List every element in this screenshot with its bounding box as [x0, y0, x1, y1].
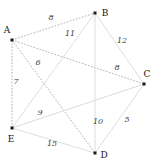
graph-edge-a-d [12, 40, 95, 153]
graph-node-d[interactable] [94, 152, 97, 155]
graph-node-label-e: E [8, 135, 15, 144]
graph-node-c[interactable] [143, 83, 146, 86]
edge-weight-e-c: 9 [37, 109, 42, 117]
graph-edge-b-c [95, 13, 144, 84]
edges-group [12, 13, 144, 153]
edge-weight-b-e: 11 [65, 30, 75, 38]
graph-node-label-b: B [102, 9, 109, 18]
edge-weight-a-c: 8 [114, 64, 119, 72]
graph-node-a[interactable] [11, 39, 14, 42]
graph-node-e[interactable] [11, 127, 14, 130]
weighted-graph-figure: ABCDE 81112687910515 [0, 0, 156, 165]
edge-weight-e-d: 15 [47, 140, 57, 148]
edge-weight-b-c: 12 [117, 37, 127, 45]
edge-weight-a-d: 6 [35, 59, 40, 67]
graph-edge-b-e [12, 13, 95, 128]
graph-node-label-d: D [100, 151, 107, 160]
graph-node-label-c: C [144, 70, 151, 79]
edge-weight-a-b: 8 [48, 14, 53, 22]
edge-weight-c-d: 5 [124, 116, 129, 124]
graph-node-label-a: A [4, 26, 11, 35]
edge-weight-b-d: 10 [93, 118, 103, 126]
graph-node-b[interactable] [94, 12, 97, 15]
graph-edge-a-c [12, 40, 144, 84]
graph-edges-canvas [0, 0, 156, 165]
edge-weight-a-e: 7 [13, 78, 18, 86]
